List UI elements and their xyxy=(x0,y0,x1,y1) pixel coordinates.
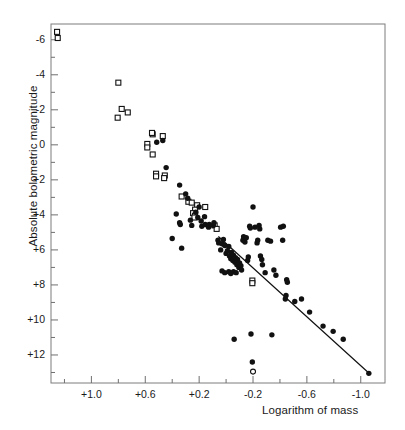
data-point-filled-circle xyxy=(226,244,231,249)
axes-frame xyxy=(51,24,385,383)
y-tick-label: -2 xyxy=(11,103,45,115)
data-point-filled-circle xyxy=(189,223,194,228)
data-point-filled-circle xyxy=(271,267,276,272)
y-tick-label: +4 xyxy=(11,208,45,220)
data-point-filled-circle xyxy=(185,196,190,201)
data-point-filled-circle xyxy=(202,214,207,219)
data-point-filled-circle xyxy=(246,254,251,259)
data-point-open-square xyxy=(116,80,121,85)
x-tick-label: +0.2 xyxy=(179,388,219,400)
data-point-filled-circle xyxy=(154,140,159,145)
y-tick-label: +10 xyxy=(11,313,45,325)
data-point-filled-circle xyxy=(273,273,278,278)
data-point-filled-circle xyxy=(170,236,175,241)
data-point-filled-circle xyxy=(239,267,244,272)
data-point-filled-circle xyxy=(248,225,253,230)
data-markers xyxy=(55,29,372,376)
data-point-open-square xyxy=(115,115,120,120)
data-point-filled-circle xyxy=(244,235,249,240)
data-point-filled-circle xyxy=(179,245,184,250)
data-point-filled-circle xyxy=(259,257,264,262)
axis-ticks xyxy=(51,40,361,383)
data-point-open-square xyxy=(55,36,60,41)
data-point-open-square xyxy=(150,130,155,135)
data-point-filled-circle xyxy=(248,331,253,336)
data-point-filled-circle xyxy=(196,204,201,209)
data-point-filled-circle xyxy=(269,332,274,337)
data-point-filled-circle xyxy=(341,337,346,342)
data-point-open-square xyxy=(189,200,194,205)
data-point-open-square xyxy=(250,281,255,286)
y-tick-label: -4 xyxy=(11,68,45,80)
data-point-filled-circle xyxy=(228,271,233,276)
data-point-open-square xyxy=(145,145,150,150)
data-point-filled-circle xyxy=(280,238,285,243)
data-point-filled-circle xyxy=(268,238,273,243)
data-point-filled-circle xyxy=(211,220,216,225)
data-point-open-square xyxy=(154,174,159,179)
data-point-filled-circle xyxy=(281,224,286,229)
data-point-filled-circle xyxy=(307,309,312,314)
data-point-filled-circle xyxy=(330,329,335,334)
x-tick-label: +1.0 xyxy=(71,388,111,400)
data-point-filled-circle xyxy=(160,138,165,143)
y-tick-label: +6 xyxy=(11,243,45,255)
data-point-filled-circle xyxy=(221,237,226,242)
data-point-open-square xyxy=(55,29,60,34)
data-point-open-square xyxy=(203,205,208,210)
data-point-open-square xyxy=(119,106,124,111)
data-point-filled-circle xyxy=(250,204,255,209)
data-point-filled-circle xyxy=(250,359,255,364)
y-tick-label: +2 xyxy=(11,173,45,185)
x-tick-label: +0.6 xyxy=(125,388,165,400)
data-point-filled-circle xyxy=(231,337,236,342)
data-point-filled-circle xyxy=(188,217,193,222)
scatter-plot-figure: Absolute bolometric magnitude Logarithm … xyxy=(0,0,405,430)
y-tick-label: -6 xyxy=(11,33,45,45)
data-point-filled-circle xyxy=(163,165,168,170)
data-point-filled-circle xyxy=(292,299,297,304)
data-point-filled-circle xyxy=(257,226,262,231)
data-point-open-circle xyxy=(251,369,256,374)
data-point-filled-circle xyxy=(320,323,325,328)
mass-luminosity-fit-line xyxy=(219,237,371,374)
x-tick-label: -0.2 xyxy=(233,388,273,400)
data-point-filled-circle xyxy=(285,280,290,285)
data-point-open-square xyxy=(125,110,130,115)
data-point-filled-circle xyxy=(262,270,267,275)
data-point-filled-circle xyxy=(233,270,238,275)
data-point-filled-circle xyxy=(174,211,179,216)
data-point-filled-circle xyxy=(218,247,223,252)
data-point-filled-circle xyxy=(177,220,182,225)
x-tick-label: -1.0 xyxy=(341,388,381,400)
data-point-filled-circle xyxy=(193,210,198,215)
data-point-filled-circle xyxy=(260,262,265,267)
data-point-filled-circle xyxy=(255,238,260,243)
data-point-filled-circle xyxy=(283,293,288,298)
y-tick-label: 0 xyxy=(11,138,45,150)
y-tick-label: +8 xyxy=(11,278,45,290)
plot-canvas xyxy=(0,0,405,430)
y-tick-label: +12 xyxy=(11,348,45,360)
data-point-filled-circle xyxy=(299,296,304,301)
data-point-open-square xyxy=(162,176,167,181)
x-tick-label: -0.6 xyxy=(287,388,327,400)
data-point-filled-circle xyxy=(366,371,371,376)
data-point-filled-circle xyxy=(177,182,182,187)
data-point-open-square xyxy=(150,152,155,157)
